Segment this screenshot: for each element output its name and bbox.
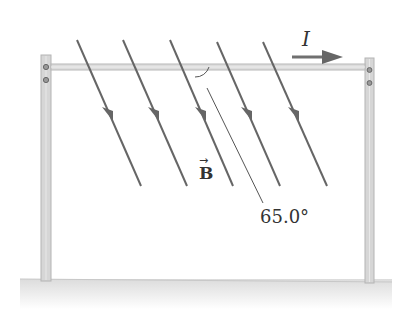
bolt-icon — [43, 64, 48, 69]
arrowhead-icon — [148, 107, 159, 121]
left-post — [41, 55, 51, 281]
current-label: I — [302, 27, 310, 51]
arrowhead-icon — [241, 107, 252, 121]
arrowhead-icon — [195, 107, 206, 121]
field-label: B — [199, 163, 213, 183]
right-post — [365, 58, 374, 283]
arrowhead-icon — [288, 107, 299, 121]
current-arrow — [292, 50, 343, 64]
bolt-icon — [367, 81, 372, 86]
bolt-icon — [367, 68, 372, 73]
angle-label: 65.0° — [260, 206, 309, 227]
ground — [20, 279, 392, 309]
bolt-icon — [43, 77, 48, 82]
